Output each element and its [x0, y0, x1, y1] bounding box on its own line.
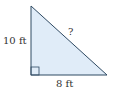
- horizontal-leg-label: 8 ft: [56, 79, 73, 89]
- vertical-leg-label: 10 ft: [3, 36, 27, 46]
- triangle: [31, 6, 107, 75]
- hypotenuse-label: ?: [68, 27, 73, 37]
